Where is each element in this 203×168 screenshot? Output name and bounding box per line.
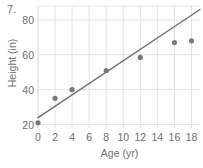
x-tick-label: 16: [169, 132, 181, 143]
x-tick-label: 18: [186, 132, 198, 143]
x-tick-label: 8: [103, 132, 109, 143]
x-tick-label: 12: [134, 132, 146, 143]
x-tick-label: 10: [117, 132, 129, 143]
scatter-plot-figure: 7. Height (in) Age (yr) 20406080 0246810…: [0, 0, 203, 168]
x-tick-label: 0: [35, 132, 41, 143]
x-tick-label: 4: [69, 132, 75, 143]
x-tick-label: 6: [86, 132, 92, 143]
x-tick-label: 2: [52, 132, 58, 143]
x-axis-tick-labels: 024681012141618: [0, 0, 203, 168]
x-tick-label: 14: [152, 132, 164, 143]
